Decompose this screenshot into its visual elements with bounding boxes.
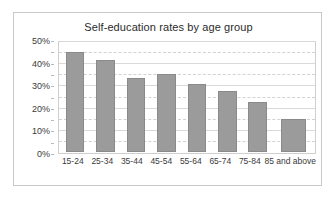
x-axis-tick-label: 65-74: [206, 156, 236, 166]
bar-slot: [273, 43, 314, 152]
bar-slot: [121, 43, 151, 152]
y-axis-tick-mark: [51, 41, 54, 42]
y-axis-tick-label: 50%: [32, 36, 50, 46]
y-axis-tick-mark: [51, 120, 54, 121]
chart-figure: Self-education rates by age group 0%10%2…: [0, 0, 334, 198]
y-axis-tick-label: 40%: [32, 59, 50, 69]
y-axis-tick-mark: [51, 154, 54, 155]
gridline: [59, 41, 315, 42]
bar-slot: [60, 43, 90, 152]
x-axis-tick-label: 25-34: [88, 156, 118, 166]
bar-slot: [212, 43, 242, 152]
x-axis-tick-label: 15-24: [58, 156, 88, 166]
bar-slot: [182, 43, 212, 152]
y-axis-tick-mark: [51, 143, 54, 144]
bar-series: [60, 43, 314, 152]
chart-title: Self-education rates by age group: [14, 21, 323, 33]
y-axis-tick-label: 30%: [32, 81, 50, 91]
y-axis-tick-mark: [51, 52, 54, 53]
y-axis-tick-mark: [51, 75, 54, 76]
bar: [157, 74, 176, 152]
x-axis-tick-label: 45-54: [147, 156, 177, 166]
y-axis-tick-mark: [51, 109, 54, 110]
bar: [218, 91, 237, 152]
chart-frame: Self-education rates by age group 0%10%2…: [13, 12, 322, 186]
x-axis: 15-2425-3435-4445-5455-6465-7475-8485 an…: [58, 156, 316, 166]
y-axis-tick-label: 20%: [32, 104, 50, 114]
y-axis-tick-label: 0%: [37, 149, 50, 159]
plot-area: [58, 41, 316, 154]
y-axis: 0%10%20%30%40%50%: [14, 41, 54, 154]
y-axis-tick-mark: [51, 64, 54, 65]
bar: [281, 119, 306, 152]
bar-slot: [90, 43, 120, 152]
x-axis-tick-label: 85 and above: [265, 156, 317, 166]
bar: [96, 60, 115, 152]
bar: [127, 78, 146, 152]
x-axis-tick-label: 75-84: [235, 156, 265, 166]
bar: [188, 84, 207, 152]
y-axis-tick-mark: [51, 86, 54, 87]
y-axis-tick-label: 10%: [32, 126, 50, 136]
bar-slot: [243, 43, 273, 152]
bar: [66, 52, 85, 152]
y-axis-tick-mark: [51, 98, 54, 99]
x-axis-tick-label: 35-44: [117, 156, 147, 166]
x-axis-tick-label: 55-64: [176, 156, 206, 166]
y-axis-tick-mark: [51, 131, 54, 132]
bar: [248, 102, 267, 152]
bar-slot: [151, 43, 181, 152]
plot-area-wrapper: [58, 41, 316, 154]
